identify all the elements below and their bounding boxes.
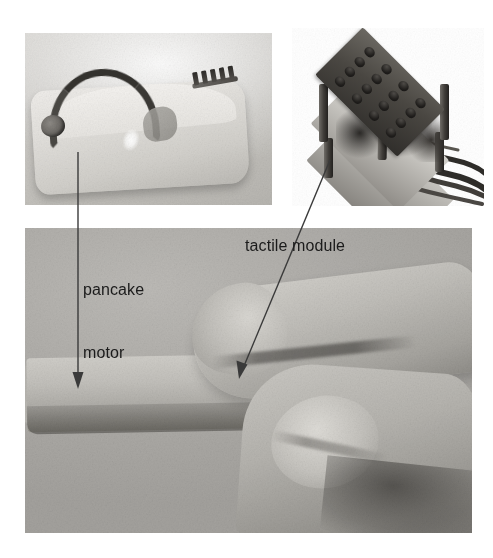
- figure-root: pancake motor tactile module: [0, 0, 493, 558]
- module-support-post: [319, 84, 328, 142]
- connector-pin: [228, 66, 235, 80]
- pancake-motor-label: pancake motor: [83, 237, 144, 405]
- connector-pin: [210, 69, 217, 83]
- pancake-motor-label-line2: motor: [83, 342, 144, 363]
- connector-pin: [219, 67, 226, 81]
- connector-pin: [201, 70, 208, 84]
- tactile-module-stack: [292, 28, 484, 206]
- connector-pin: [192, 72, 199, 86]
- tactile-module-label: tactile module: [245, 235, 345, 256]
- tactile-module-photo-panel: [292, 28, 484, 206]
- module-support-post: [324, 138, 333, 178]
- motor-cavity-channel: [45, 65, 160, 150]
- pancake-motor-label-line1: pancake: [83, 279, 144, 300]
- pancake-motor-photo-panel: [25, 33, 272, 205]
